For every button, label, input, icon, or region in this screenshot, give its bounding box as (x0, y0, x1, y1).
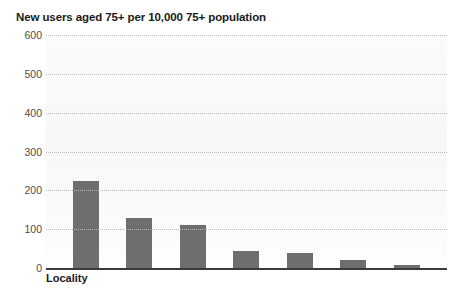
gridline (46, 35, 447, 36)
gridline (46, 229, 447, 230)
gridline (46, 190, 447, 191)
y-axis-tick-label: 600 (8, 29, 42, 41)
y-axis-tick-label: 100 (8, 223, 42, 235)
bar (180, 225, 206, 268)
y-axis-tick-label: 300 (8, 146, 42, 158)
chart-title: New users aged 75+ per 10,000 75+ popula… (16, 11, 266, 23)
gridline (46, 74, 447, 75)
bar (126, 218, 152, 268)
bar (340, 260, 366, 268)
x-axis-line (46, 268, 447, 270)
bar (233, 251, 259, 268)
bar (287, 253, 313, 268)
gridline (46, 113, 447, 114)
bar-chart: New users aged 75+ per 10,000 75+ popula… (0, 0, 473, 295)
y-axis-tick-label: 0 (8, 262, 42, 274)
y-axis-tick-label: 400 (8, 107, 42, 119)
bar (394, 265, 420, 268)
gridline (46, 152, 447, 153)
y-axis-tick-label: 500 (8, 68, 42, 80)
x-axis-label: Locality (46, 272, 88, 284)
y-axis-tick-label: 200 (8, 184, 42, 196)
bar (73, 181, 99, 268)
